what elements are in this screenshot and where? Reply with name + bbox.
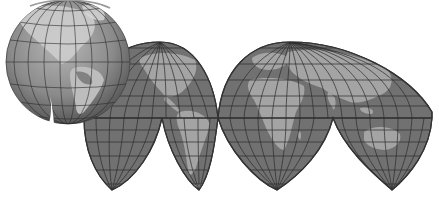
projection-illustration — [0, 0, 439, 201]
interrupted-map — [80, 42, 439, 201]
